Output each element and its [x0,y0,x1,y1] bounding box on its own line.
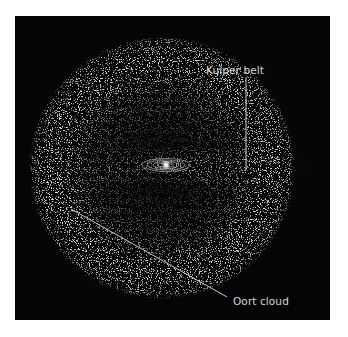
diagram-panel: Kuiper belt Oort cloud [15,16,330,320]
kuiper-belt-disc [60,145,310,189]
oort-cloud-label: Oort cloud [233,295,289,307]
sun-icon [161,160,171,170]
kuiper-belt-label: Kuiper belt [206,64,264,76]
oort-cloud-illustration [15,16,330,320]
